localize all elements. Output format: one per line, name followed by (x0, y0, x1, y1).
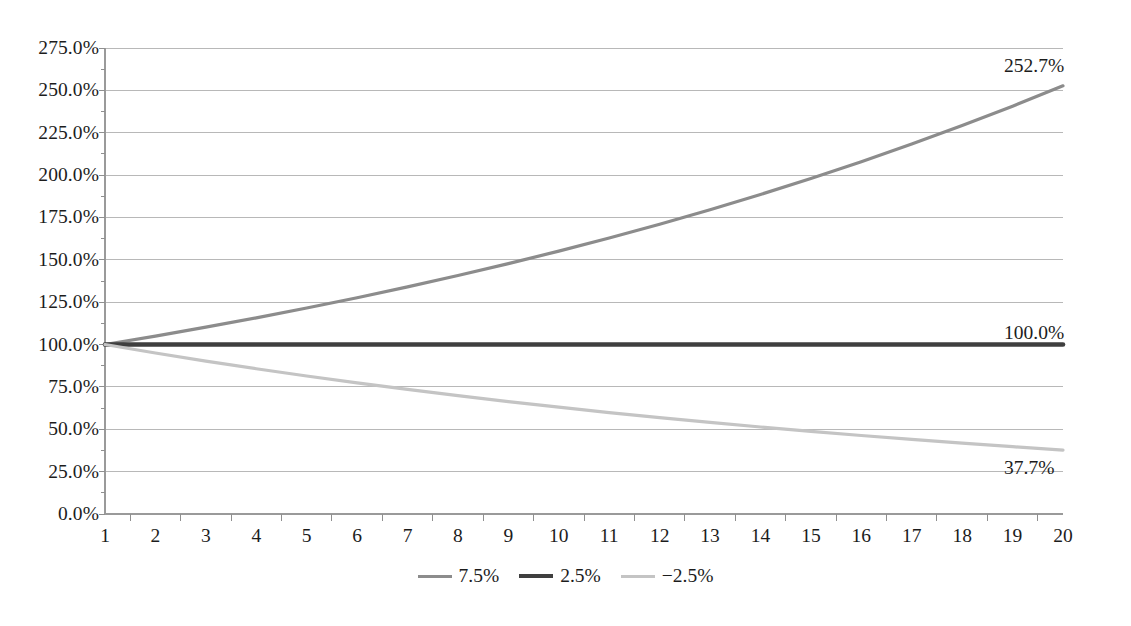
chart-container: 0.0%25.0%50.0%75.0%100.0%125.0%150.0%175… (0, 0, 1131, 626)
x-axis-tick-label: 19 (991, 525, 1035, 547)
legend-line-swatch-icon (621, 575, 655, 578)
x-axis-tick-label: 12 (638, 525, 682, 547)
x-axis-tick-label: 1 (83, 525, 127, 547)
legend-item[interactable]: −2.5% (621, 566, 714, 586)
x-axis-tick-label: 15 (789, 525, 833, 547)
x-axis-tick-label: 17 (890, 525, 934, 547)
series-line-0 (105, 86, 1063, 345)
series-line-2 (105, 345, 1063, 451)
x-axis-tick-label: 13 (688, 525, 732, 547)
legend-item[interactable]: 2.5% (519, 566, 601, 586)
x-axis-tick-label: 5 (285, 525, 329, 547)
x-axis-tick-label: 2 (133, 525, 177, 547)
x-axis-tick-labels: 1234567891011121314151617181920 (105, 525, 1063, 555)
legend-item[interactable]: 7.5% (418, 566, 500, 586)
x-axis-tick-label: 3 (184, 525, 228, 547)
series-end-label: 100.0% (1004, 323, 1064, 343)
x-axis-tick-label: 11 (587, 525, 631, 547)
legend-item-label: −2.5% (662, 566, 714, 586)
x-axis-tick-label: 18 (940, 525, 984, 547)
x-axis-tick-label: 20 (1041, 525, 1085, 547)
series-end-label: 252.7% (1004, 56, 1064, 76)
x-axis-tick-label: 7 (386, 525, 430, 547)
x-axis-tick-label: 4 (234, 525, 278, 547)
series-end-label: 37.7% (1004, 458, 1054, 478)
x-axis-tick-label: 8 (436, 525, 480, 547)
x-axis-tick-label: 10 (537, 525, 581, 547)
x-axis-tick-label: 16 (839, 525, 883, 547)
legend-item-label: 7.5% (459, 566, 500, 586)
chart-legend: 7.5%2.5%−2.5% (0, 560, 1131, 592)
x-axis-tick-label: 14 (738, 525, 782, 547)
x-axis-tick-label: 9 (486, 525, 530, 547)
legend-line-swatch-icon (418, 575, 452, 578)
legend-line-swatch-icon (519, 574, 553, 578)
x-axis-tick-label: 6 (335, 525, 379, 547)
legend-item-label: 2.5% (560, 566, 601, 586)
